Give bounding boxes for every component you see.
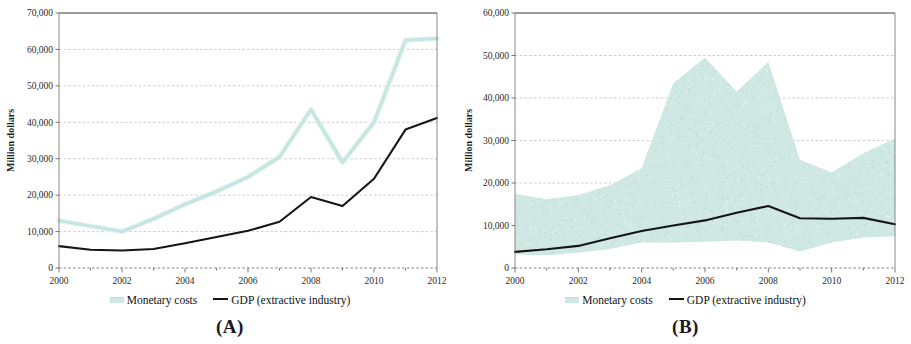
chart-b-svg: 010,00020,00030,00040,00050,00060,000200… — [460, 0, 911, 290]
svg-text:2002: 2002 — [113, 276, 132, 286]
svg-text:60,000: 60,000 — [483, 8, 509, 18]
svg-text:2012: 2012 — [428, 276, 447, 286]
svg-text:60,000: 60,000 — [27, 45, 53, 55]
legend-item-monetary-costs[interactable]: Monetary costs — [565, 294, 653, 306]
svg-text:2012: 2012 — [886, 276, 905, 286]
svg-text:2010: 2010 — [822, 276, 841, 286]
svg-text:20,000: 20,000 — [27, 190, 53, 200]
svg-text:2000: 2000 — [506, 276, 525, 286]
panel-caption-b: (B) — [460, 316, 911, 338]
chart-panel-a: 010,00020,00030,00040,00050,00060,00070,… — [0, 0, 460, 344]
svg-text:70,000: 70,000 — [27, 8, 53, 18]
svg-text:50,000: 50,000 — [27, 81, 53, 91]
legend-item-monetary-costs[interactable]: Monetary costs — [110, 294, 198, 306]
chart-b-plot: 010,00020,00030,00040,00050,00060,000200… — [460, 0, 911, 290]
svg-text:2006: 2006 — [239, 276, 258, 286]
band-swatch-icon — [565, 297, 579, 303]
svg-text:2004: 2004 — [632, 276, 651, 286]
svg-text:10,000: 10,000 — [483, 221, 509, 231]
band-swatch-icon — [110, 297, 124, 303]
legend-item-gdp[interactable]: GDP (extractive industry) — [213, 294, 350, 306]
svg-text:2000: 2000 — [50, 276, 69, 286]
svg-text:2010: 2010 — [365, 276, 384, 286]
svg-text:2004: 2004 — [176, 276, 195, 286]
chart-a-legend: Monetary costs GDP (extractive industry) — [0, 294, 460, 306]
figure-root: 010,00020,00030,00040,00050,00060,00070,… — [0, 0, 911, 344]
svg-text:40,000: 40,000 — [27, 118, 53, 128]
legend-label-gdp: GDP (extractive industry) — [687, 294, 806, 306]
line-swatch-icon — [213, 298, 228, 300]
legend-label-monetary-costs: Monetary costs — [127, 294, 198, 306]
svg-text:40,000: 40,000 — [483, 93, 509, 103]
svg-text:2006: 2006 — [696, 276, 715, 286]
svg-text:2002: 2002 — [569, 276, 588, 286]
svg-text:Million dollars: Million dollars — [5, 109, 16, 172]
svg-text:Million dollars: Million dollars — [463, 109, 474, 172]
legend-item-gdp[interactable]: GDP (extractive industry) — [669, 294, 806, 306]
panel-caption-a: (A) — [0, 316, 460, 338]
svg-text:30,000: 30,000 — [27, 154, 53, 164]
legend-label-monetary-costs: Monetary costs — [582, 294, 653, 306]
svg-text:30,000: 30,000 — [483, 136, 509, 146]
chart-a-svg: 010,00020,00030,00040,00050,00060,00070,… — [0, 0, 460, 290]
chart-b-legend: Monetary costs GDP (extractive industry) — [460, 294, 911, 306]
svg-text:20,000: 20,000 — [483, 178, 509, 188]
svg-text:50,000: 50,000 — [483, 51, 509, 61]
svg-text:2008: 2008 — [759, 276, 778, 286]
svg-text:2008: 2008 — [302, 276, 321, 286]
chart-a-plot: 010,00020,00030,00040,00050,00060,00070,… — [0, 0, 460, 290]
svg-text:10,000: 10,000 — [27, 227, 53, 237]
svg-text:0: 0 — [504, 263, 509, 273]
legend-label-gdp: GDP (extractive industry) — [231, 294, 350, 306]
chart-panel-b: 010,00020,00030,00040,00050,00060,000200… — [460, 0, 911, 344]
line-swatch-icon — [669, 298, 684, 300]
svg-text:0: 0 — [48, 263, 53, 273]
